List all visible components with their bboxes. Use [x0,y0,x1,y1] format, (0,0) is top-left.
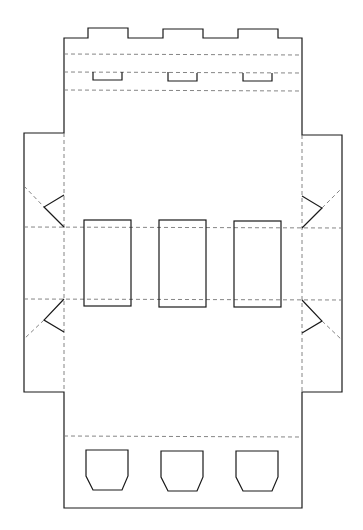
fold-line-bottom [64,436,302,437]
fold-line-mid-upper [24,227,342,228]
fold-diagonal-right-upper [322,188,342,208]
window-cutout-1 [84,220,131,306]
fold-diagonal-left-lower [24,320,44,339]
handle-cutout-3 [236,451,278,491]
fold-line-top-1 [64,54,302,55]
fold-diagonal-right-lower [322,321,342,340]
fold-line-top-3 [64,90,302,91]
window-cutout-3 [234,221,281,307]
window-cutout-2 [159,220,206,307]
top-slot-1 [93,72,122,80]
handle-cutout-2 [161,451,203,491]
triangle-notch-right-lower [302,300,322,333]
fold-diagonal-left-upper [24,186,44,207]
fold-line-top-2 [64,72,302,73]
top-slot-3 [243,73,272,81]
box-net-diagram [0,0,363,530]
triangle-notch-left-upper [44,195,64,227]
fold-line-mid-lower [24,299,342,300]
handle-cutout-1 [86,450,128,490]
triangle-notch-left-lower [44,299,64,332]
top-slot-2 [168,72,197,81]
triangle-notch-right-upper [302,196,322,228]
